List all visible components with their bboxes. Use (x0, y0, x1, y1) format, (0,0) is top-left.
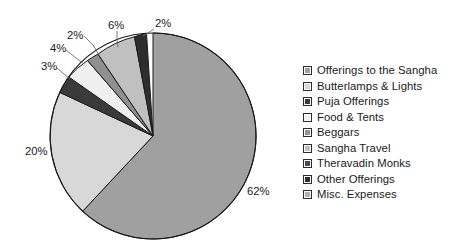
legend-swatch-icon (303, 175, 312, 184)
data-label-3pct: 3% (41, 61, 57, 72)
legend-item-misc-expenses[interactable]: Misc. Expenses (303, 187, 471, 203)
legend-item-food-and-tents[interactable]: Food & Tents (303, 110, 471, 126)
data-label-4pct: 4% (50, 43, 66, 54)
data-label-20pct: 20% (25, 146, 48, 157)
legend-item-puja-offerings[interactable]: Puja Offerings (303, 94, 471, 110)
legend-item-butterlamps-and-lights[interactable]: Butterlamps & Lights (303, 79, 471, 95)
pie-chart-svg (0, 0, 300, 250)
data-label-6pct: 6% (108, 20, 124, 31)
pie-chart-plot-area: 62% 20% 3% 4% 2% 6% 2% (0, 0, 300, 250)
legend-item-label: Offerings to the Sangha (317, 65, 437, 76)
data-label-2pct-beggars: 2% (67, 30, 83, 41)
legend-swatch-icon (303, 128, 312, 137)
pie-chart-figure: 62% 20% 3% 4% 2% 6% 2% Offerings to the … (0, 0, 471, 250)
legend-item-theravadin-monks[interactable]: Theravadin Monks (303, 156, 471, 172)
legend-swatch-icon (303, 144, 312, 153)
data-label-62pct: 62% (247, 186, 270, 197)
legend-swatch-icon (303, 97, 312, 106)
legend-item-label: Theravadin Monks (317, 158, 411, 169)
legend-item-label: Sangha Travel (317, 143, 391, 154)
legend-swatch-icon (303, 159, 312, 168)
leader-line-4pct (66, 50, 84, 64)
legend-item-label: Beggars (317, 127, 359, 138)
chart-legend: Offerings to the Sangha Butterlamps & Li… (303, 63, 471, 203)
legend-swatch-icon (303, 66, 312, 75)
legend-item-label: Food & Tents (317, 112, 384, 123)
legend-item-beggars[interactable]: Beggars (303, 125, 471, 141)
data-label-2pct-other: 2% (155, 18, 171, 29)
legend-swatch-icon (303, 82, 312, 91)
leader-line-2pct-beggars (84, 36, 99, 55)
legend-swatch-icon (303, 113, 312, 122)
legend-item-other-offerings[interactable]: Other Offerings (303, 172, 471, 188)
legend-swatch-icon (303, 190, 312, 199)
legend-item-label: Butterlamps & Lights (317, 81, 422, 92)
legend-item-sangha-travel[interactable]: Sangha Travel (303, 141, 471, 157)
legend-item-offerings-to-the-sangha[interactable]: Offerings to the Sangha (303, 63, 471, 79)
leader-line-3pct (57, 68, 70, 79)
legend-item-label: Other Offerings (317, 174, 395, 185)
legend-item-label: Puja Offerings (317, 96, 389, 107)
legend-item-label: Misc. Expenses (317, 189, 397, 200)
